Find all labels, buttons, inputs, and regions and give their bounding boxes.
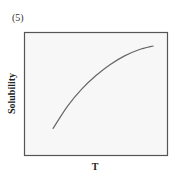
- y-axis-label: Solubility: [4, 58, 20, 128]
- y-axis-label-text: Solubility: [7, 72, 18, 113]
- solubility-chart: [0, 0, 179, 181]
- x-axis-label: T: [85, 161, 105, 172]
- plot-area: [25, 33, 168, 156]
